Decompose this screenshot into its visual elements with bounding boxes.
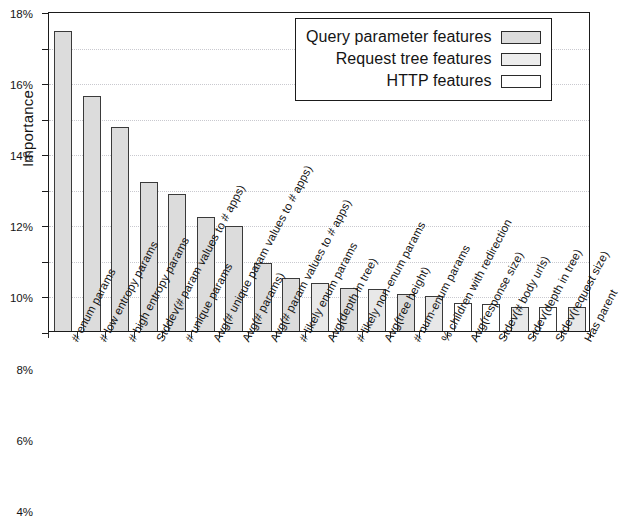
y-axis-tick-label: 10% bbox=[10, 292, 33, 304]
y-axis-tick-label: 18% bbox=[10, 8, 33, 20]
y-axis-tick: 12% bbox=[42, 120, 49, 121]
y-axis-tick-label: 16% bbox=[10, 79, 33, 91]
y-axis-tick: 6% bbox=[42, 226, 49, 227]
y-axis-tick-label: 14% bbox=[10, 150, 33, 162]
legend-item-label: HTTP features bbox=[387, 72, 492, 90]
y-axis-tick: 10% bbox=[42, 155, 49, 156]
y-axis-title: Importance bbox=[19, 49, 36, 209]
legend-item-tree: Request tree features bbox=[306, 48, 541, 70]
y-axis-tick: 14% bbox=[42, 84, 49, 85]
y-axis-tick: 2% bbox=[42, 297, 49, 298]
bar-chart-figure: Importance 0%2%4%6%8%10%12%14%16%18% # e… bbox=[0, 0, 630, 521]
legend-item-http: HTTP features bbox=[306, 70, 541, 92]
legend-item-query: Query parameter features bbox=[306, 26, 541, 48]
y-axis-tick: 16% bbox=[42, 49, 49, 50]
x-axis-labels: # enum params# low entropy params# high … bbox=[48, 332, 590, 521]
legend-swatch-icon bbox=[501, 53, 541, 66]
y-axis-tick: 8% bbox=[42, 191, 49, 192]
y-axis-tick-label: 6% bbox=[16, 435, 33, 447]
y-axis-tick: 4% bbox=[42, 262, 49, 263]
legend-item-label: Query parameter features bbox=[306, 28, 492, 46]
y-axis-tick-label: 4% bbox=[16, 506, 33, 518]
legend-swatch-icon bbox=[501, 75, 541, 88]
chart-legend: Query parameter featuresRequest tree fea… bbox=[295, 18, 552, 101]
legend-item-label: Request tree features bbox=[336, 50, 492, 68]
y-axis-tick: 18% bbox=[42, 13, 49, 14]
bar bbox=[54, 31, 72, 331]
y-axis-tick-label: 8% bbox=[16, 364, 33, 376]
y-axis-tick-label: 12% bbox=[10, 221, 33, 233]
legend-swatch-icon bbox=[501, 31, 541, 44]
